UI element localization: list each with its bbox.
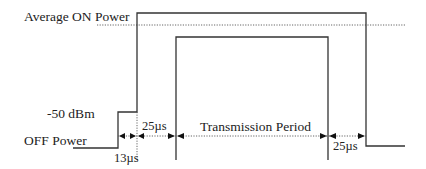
arrowhead-left-icon <box>177 133 184 139</box>
arrowhead-right-icon <box>168 133 175 139</box>
ramp-13us-label: 13µs <box>114 151 139 165</box>
power-timing-diagram: Average ON Power -50 dBm OFF Power 13µs … <box>0 0 426 169</box>
minus-50-dbm-label: -50 dBm <box>47 106 95 121</box>
arrowhead-right-icon <box>320 133 327 139</box>
transmission-window <box>176 37 328 160</box>
settle-25us-right-label: 25µs <box>333 139 358 153</box>
off-power-label: OFF Power <box>24 133 87 148</box>
settle-25us-left-label: 25µs <box>142 119 167 133</box>
arrowhead-left-icon <box>138 133 144 139</box>
average-on-power-label: Average ON Power <box>24 9 130 24</box>
arrowhead-left-icon <box>119 133 125 139</box>
transmission-period-label: Transmission Period <box>200 119 311 134</box>
arrowhead-right-icon <box>130 133 136 139</box>
arrowhead-right-icon <box>358 133 365 139</box>
